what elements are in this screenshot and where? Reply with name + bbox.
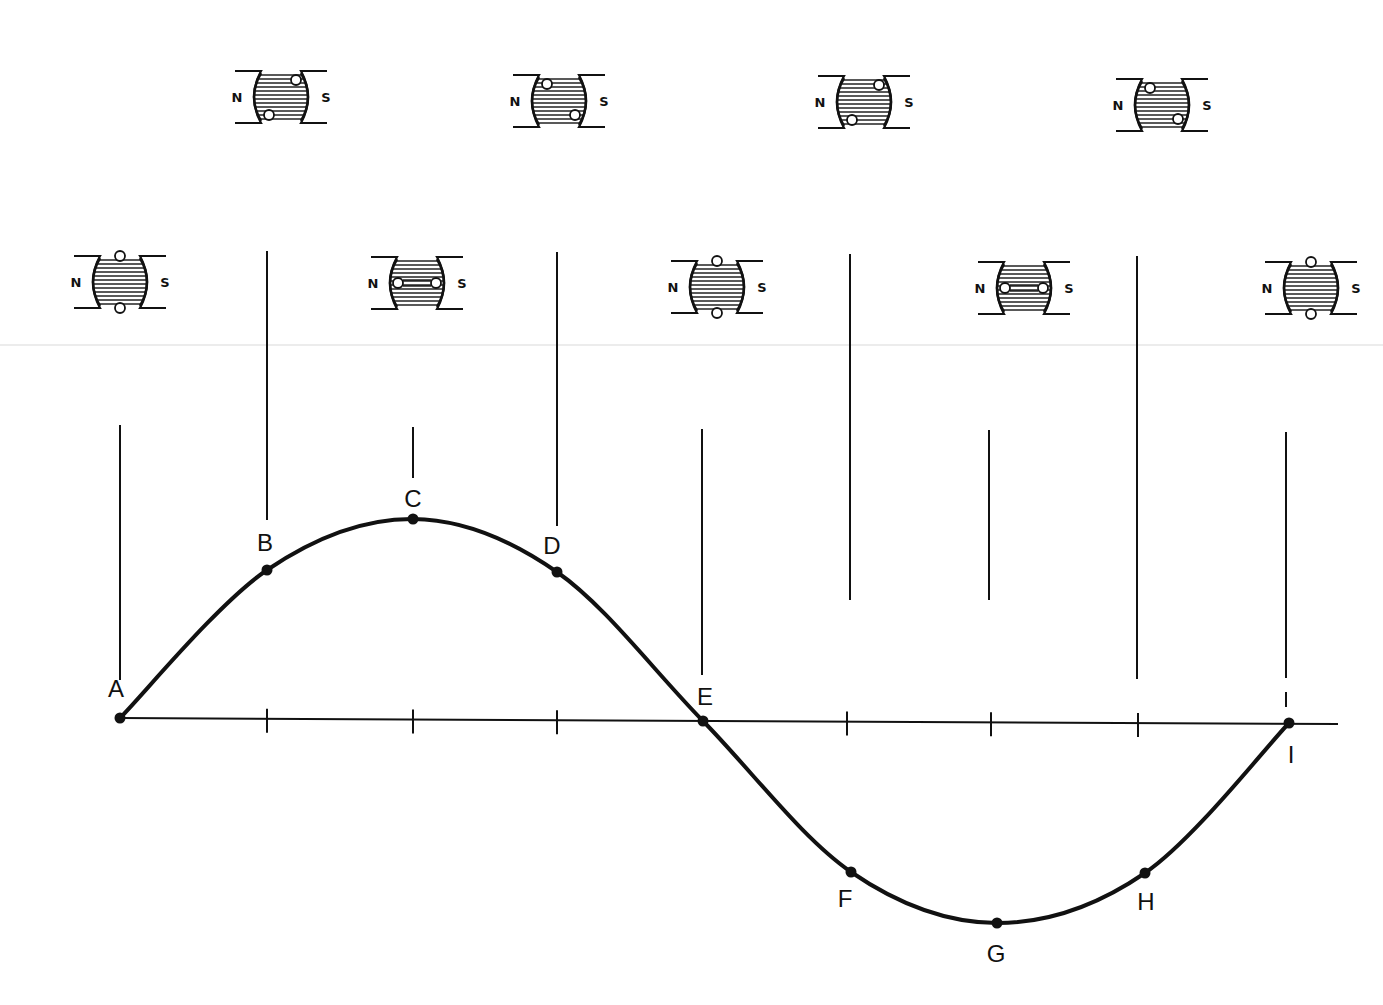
- ac-generator-sine-diagram: ABCDEFGHI NSNSNSNSNSNSNSNSNS: [0, 0, 1383, 1005]
- coil-loop: [264, 110, 274, 120]
- coil-loop: [115, 251, 125, 261]
- point-marker-a: [115, 713, 126, 724]
- rotor-icon-g: NS: [975, 262, 1074, 314]
- point-label-h: H: [1137, 888, 1154, 915]
- coil-loop: [542, 79, 552, 89]
- rotor-icon-a: NS: [71, 251, 170, 313]
- point-label-d: D: [543, 532, 560, 559]
- south-pole-label: S: [160, 275, 169, 290]
- coil-loop: [847, 115, 857, 125]
- rotor-icon-b: NS: [232, 71, 331, 123]
- armature-outline: [93, 258, 147, 306]
- coil-loop: [431, 278, 441, 288]
- coil-loop: [393, 278, 403, 288]
- armature: [88, 260, 152, 304]
- coil-loop: [1000, 283, 1010, 293]
- south-pole-label: S: [1064, 281, 1073, 296]
- coil-loop: [1145, 83, 1155, 93]
- time-axis: [120, 709, 1338, 737]
- point-label-c: C: [404, 485, 421, 512]
- coil-loop: [570, 110, 580, 120]
- north-pole-label: N: [510, 94, 521, 109]
- armature-outline: [690, 263, 744, 311]
- rotor-icon-f: NS: [815, 76, 914, 128]
- point-marker-e: [698, 716, 709, 727]
- coil-loop: [115, 303, 125, 313]
- curve-points: [115, 514, 1295, 929]
- south-pole-label: S: [1202, 98, 1211, 113]
- south-pole-label: S: [457, 276, 466, 291]
- rotor-icon-i: NS: [1262, 257, 1361, 319]
- coil-loop: [1038, 283, 1048, 293]
- rotor-positions: NSNSNSNSNSNSNSNSNS: [71, 71, 1361, 319]
- axis-line: [120, 718, 1338, 724]
- north-pole-label: N: [1262, 281, 1273, 296]
- coil-loop: [874, 80, 884, 90]
- armature: [685, 265, 749, 309]
- north-pole-label: N: [1113, 98, 1124, 113]
- rotor-icon-h: NS: [1113, 79, 1212, 131]
- point-marker-i: [1284, 718, 1295, 729]
- coil-loop: [291, 75, 301, 85]
- north-pole-label: N: [71, 275, 82, 290]
- armature: [1130, 83, 1194, 127]
- coil-loop: [712, 256, 722, 266]
- rotor-icon-d: NS: [510, 75, 609, 127]
- north-pole-label: N: [668, 280, 679, 295]
- south-pole-label: S: [599, 94, 608, 109]
- guide-lines: [120, 251, 1286, 707]
- point-label-b: B: [257, 529, 273, 556]
- point-marker-d: [552, 567, 563, 578]
- point-label-i: I: [1288, 741, 1295, 768]
- rotor-icon-e: NS: [668, 256, 767, 318]
- coil-loop: [712, 308, 722, 318]
- coil-loop: [1306, 309, 1316, 319]
- point-marker-f: [846, 867, 857, 878]
- south-pole-label: S: [757, 280, 766, 295]
- coil-loop: [1173, 114, 1183, 124]
- north-pole-label: N: [232, 90, 243, 105]
- armature: [832, 80, 896, 124]
- south-pole-label: S: [321, 90, 330, 105]
- rotor-icon-c: NS: [368, 257, 467, 309]
- armature-outline: [1284, 264, 1338, 312]
- armature: [249, 75, 313, 119]
- coil-loop: [1306, 257, 1316, 267]
- armature: [527, 79, 591, 123]
- point-label-a: A: [108, 675, 124, 702]
- point-label-f: F: [838, 885, 853, 912]
- armature: [1279, 266, 1343, 310]
- north-pole-label: N: [368, 276, 379, 291]
- south-pole-label: S: [1351, 281, 1360, 296]
- point-label-g: G: [987, 940, 1006, 967]
- point-marker-g: [992, 918, 1003, 929]
- point-marker-h: [1140, 868, 1151, 879]
- south-pole-label: S: [904, 95, 913, 110]
- north-pole-label: N: [815, 95, 826, 110]
- point-label-e: E: [697, 683, 713, 710]
- point-marker-b: [262, 565, 273, 576]
- point-marker-c: [408, 514, 419, 525]
- north-pole-label: N: [975, 281, 986, 296]
